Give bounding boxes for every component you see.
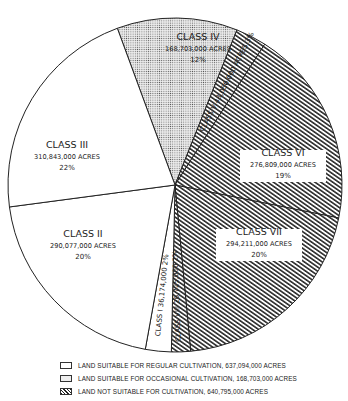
acres-class-iii: 310,843,000 ACRES — [34, 153, 100, 161]
label-class-vi: CLASS VI — [261, 147, 304, 158]
label-class-vii: CLASS VII — [236, 226, 282, 237]
label-class-ii: CLASS II — [63, 228, 102, 239]
legend-item-occasional: LAND SUITABLE FOR OCCASIONAL CULTIVATION… — [60, 372, 297, 385]
hatched-swatch-icon — [60, 388, 72, 395]
slice-class-ii — [9, 185, 175, 349]
pie-chart: CLASS IV168,703,000 ACRES12%CLASS VI276,… — [0, 0, 348, 401]
percent-class-vi: 19% — [275, 172, 291, 180]
legend-item-regular: LAND SUITABLE FOR REGULAR CULTIVATION, 6… — [60, 359, 297, 372]
legend-label: LAND NOT SUITABLE FOR CULTIVATION, 640,7… — [78, 388, 268, 395]
dotted-swatch-icon — [60, 375, 72, 382]
acres-class-ii: 290,077,000 ACRES — [50, 242, 116, 250]
percent-class-iv: 12% — [190, 56, 206, 64]
acres-class-iv: 168,703,000 ACRES — [165, 45, 231, 53]
percent-class-vii: 20% — [251, 251, 267, 259]
percent-class-iii: 22% — [59, 164, 75, 172]
acres-class-vii: 294,211,000 ACRES — [226, 240, 292, 248]
percent-class-ii: 20% — [75, 253, 91, 261]
acres-class-vi: 276,809,000 ACRES — [250, 161, 316, 169]
white-swatch-icon — [60, 362, 72, 369]
legend: LAND SUITABLE FOR REGULAR CULTIVATION, 6… — [60, 359, 297, 398]
label-class-iv: CLASS IV — [176, 31, 220, 42]
legend-item-not-suitable: LAND NOT SUITABLE FOR CULTIVATION, 640,7… — [60, 385, 297, 398]
legend-label: LAND SUITABLE FOR OCCASIONAL CULTIVATION… — [78, 375, 297, 382]
legend-label: LAND SUITABLE FOR REGULAR CULTIVATION, 6… — [78, 362, 286, 369]
label-class-iii: CLASS III — [46, 139, 88, 150]
